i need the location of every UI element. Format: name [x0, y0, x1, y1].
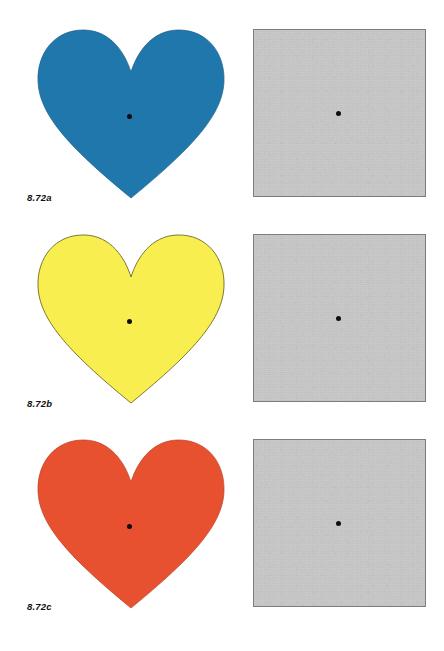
trial-row: 8.72a: [0, 0, 444, 205]
gray-adaptation-square: [253, 29, 426, 197]
figure-label-a: 8.72a: [27, 192, 52, 203]
fixation-dot: [336, 316, 341, 321]
fixation-dot: [127, 319, 132, 324]
gray-adaptation-square: [253, 234, 426, 402]
fixation-dot: [336, 111, 341, 116]
figure-label-b: 8.72b: [27, 398, 52, 409]
trial-row: 8.72c: [0, 410, 444, 615]
fixation-dot: [127, 114, 132, 119]
yellow-heart-stage: [33, 230, 229, 408]
gray-adaptation-square: [253, 439, 426, 607]
fixation-dot: [336, 521, 341, 526]
figure-label-c: 8.72c: [27, 601, 52, 612]
fixation-dot: [127, 524, 132, 529]
red-heart-stage: [33, 435, 229, 613]
blue-heart-stage: [33, 25, 229, 203]
trial-row: 8.72b: [0, 205, 444, 410]
figure-sheet: 8.72a 8.72b: [0, 0, 444, 651]
